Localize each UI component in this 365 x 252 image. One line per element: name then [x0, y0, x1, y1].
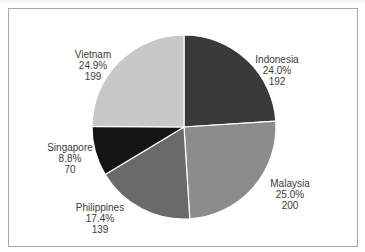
label-singapore: Singapore 8.8% 70 [47, 142, 93, 175]
label-philippines: Philippines 17.4% 139 [76, 202, 124, 235]
label-name: Vietnam [75, 49, 112, 60]
label-pct: 24.0% [255, 65, 298, 76]
pie-chart [0, 0, 365, 252]
label-value: 199 [75, 71, 112, 82]
label-name: Singapore [47, 142, 93, 153]
label-value: 192 [255, 76, 298, 87]
label-value: 139 [76, 224, 124, 235]
label-name: Malaysia [270, 178, 309, 189]
label-indonesia: Indonesia 24.0% 192 [255, 54, 298, 87]
label-malaysia: Malaysia 25.0% 200 [270, 178, 309, 211]
pie-slice-malaysia [184, 121, 276, 219]
label-pct: 24.9% [75, 60, 112, 71]
label-value: 70 [47, 164, 93, 175]
label-name: Indonesia [255, 54, 298, 65]
label-vietnam: Vietnam 24.9% 199 [75, 49, 112, 82]
label-pct: 25.0% [270, 189, 309, 200]
label-name: Philippines [76, 202, 124, 213]
label-value: 200 [270, 200, 309, 211]
label-pct: 17.4% [76, 213, 124, 224]
label-pct: 8.8% [47, 153, 93, 164]
